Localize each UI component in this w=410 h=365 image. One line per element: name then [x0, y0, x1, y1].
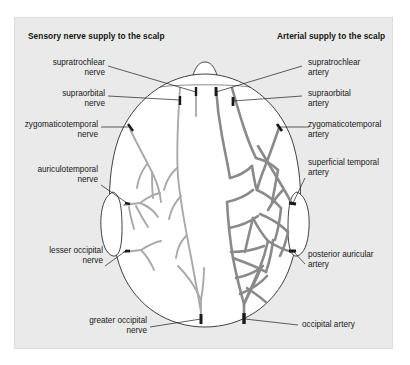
- label-supraorbital-artery-line2: artery: [308, 99, 351, 109]
- label-supraorbital-nerve: supraorbital nerve: [5, 89, 105, 110]
- label-zygomaticotemporal-nerve-line1: zygomaticotemporal: [0, 120, 98, 130]
- label-superficial-temporal-artery: superficial temporal artery: [308, 158, 379, 179]
- label-posterior-auricular-artery-line2: artery: [308, 260, 374, 270]
- label-supraorbital-nerve-line1: supraorbital: [5, 89, 105, 99]
- label-auriculotemporal-nerve: auriculotemporal nerve: [0, 165, 98, 186]
- label-occipital-artery-line1: occipital artery: [302, 320, 355, 330]
- left-panel-title: Sensory nerve supply to the scalp: [28, 31, 165, 41]
- label-superficial-temporal-artery-line2: artery: [308, 168, 379, 178]
- label-zygomaticotemporal-artery-line2: artery: [308, 130, 381, 140]
- anatomy-figure: Sensory nerve supply to the scalp Arteri…: [0, 0, 410, 365]
- label-supraorbital-nerve-line2: nerve: [5, 99, 105, 109]
- label-supratrochlear-nerve-line1: supratrochlear: [5, 58, 105, 68]
- label-greater-occipital-nerve: greater occipital nerve: [45, 316, 147, 337]
- right-panel-title: Arterial supply to the scalp: [277, 31, 385, 41]
- label-lesser-occipital-nerve: lesser occipital nerve: [5, 246, 103, 267]
- label-occipital-artery: occipital artery: [302, 320, 355, 330]
- label-zygomaticotemporal-artery: zygomaticotemporal artery: [308, 120, 381, 141]
- label-lesser-occipital-nerve-line1: lesser occipital: [5, 246, 103, 256]
- tick-superficial-temporal-artery: [289, 203, 296, 204]
- label-supratrochlear-nerve: supratrochlear nerve: [5, 58, 105, 79]
- label-zygomaticotemporal-nerve-line2: nerve: [0, 130, 98, 140]
- tick-auriculotemporal-nerve: [125, 203, 130, 204]
- label-auriculotemporal-nerve-line1: auriculotemporal: [0, 165, 98, 175]
- label-zygomaticotemporal-nerve: zygomaticotemporal nerve: [0, 120, 98, 141]
- label-supratrochlear-artery-line2: artery: [308, 68, 360, 78]
- head-outline-group: [109, 62, 300, 327]
- label-supraorbital-artery-line1: supraorbital: [308, 89, 351, 99]
- label-supratrochlear-nerve-line2: nerve: [5, 68, 105, 78]
- label-supratrochlear-artery-line1: supratrochlear: [308, 58, 360, 68]
- label-superficial-temporal-artery-line1: superficial temporal: [308, 158, 379, 168]
- label-posterior-auricular-artery-line1: posterior auricular: [308, 250, 374, 260]
- label-posterior-auricular-artery: posterior auricular artery: [308, 250, 374, 271]
- label-zygomaticotemporal-artery-line1: zygomaticotemporal: [308, 120, 381, 130]
- zygomaticotemporal-nerve-branch-b: [152, 172, 153, 198]
- label-lesser-occipital-nerve-line2: nerve: [5, 256, 103, 266]
- label-supratrochlear-artery: supratrochlear artery: [308, 58, 360, 79]
- leader-occipital-artery: [245, 319, 298, 325]
- label-greater-occipital-nerve-line2: nerve: [45, 326, 147, 336]
- left-ear: [101, 192, 122, 256]
- label-greater-occipital-nerve-line1: greater occipital: [45, 316, 147, 326]
- label-supraorbital-artery: supraorbital artery: [308, 89, 351, 110]
- label-auriculotemporal-nerve-line2: nerve: [0, 175, 98, 185]
